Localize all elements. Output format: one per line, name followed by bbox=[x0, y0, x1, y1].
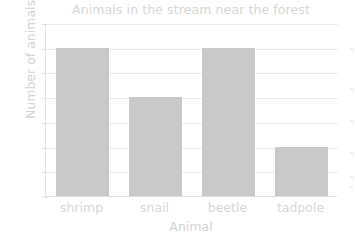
x-tick-label-shrimp: shrimp bbox=[45, 200, 118, 215]
y-tick-mark bbox=[42, 73, 47, 74]
bar-tadpole bbox=[275, 147, 328, 196]
x-axis-title: Animal bbox=[45, 219, 337, 234]
y-axis-title: Number of animals bbox=[23, 0, 38, 150]
x-tick-label-beetle: beetle bbox=[191, 200, 264, 215]
bar-beetle bbox=[202, 48, 255, 196]
y-tick-mark bbox=[42, 49, 47, 50]
y-tick-mark bbox=[42, 172, 47, 173]
y-tick-mark bbox=[42, 24, 47, 25]
bar-chart: Animals in the stream near the forest Nu… bbox=[0, 0, 355, 250]
edge-artifact bbox=[350, 48, 353, 50]
bar-shrimp bbox=[56, 48, 109, 196]
y-tick-mark bbox=[42, 197, 47, 198]
edge-artifact bbox=[350, 186, 353, 188]
y-tick-mark bbox=[42, 98, 47, 99]
gridline bbox=[46, 24, 338, 25]
plot-area: 01234567 bbox=[45, 24, 337, 197]
chart-title: Animals in the stream near the forest bbox=[45, 2, 337, 17]
bar-snail bbox=[129, 97, 182, 196]
x-tick-label-tadpole: tadpole bbox=[264, 200, 337, 215]
y-tick-mark bbox=[42, 148, 47, 149]
edge-artifact bbox=[350, 176, 353, 178]
edge-artifact bbox=[350, 152, 353, 154]
edge-artifact bbox=[350, 88, 353, 90]
x-tick-label-snail: snail bbox=[118, 200, 191, 215]
edge-artifact bbox=[350, 120, 353, 122]
y-tick-mark bbox=[42, 123, 47, 124]
